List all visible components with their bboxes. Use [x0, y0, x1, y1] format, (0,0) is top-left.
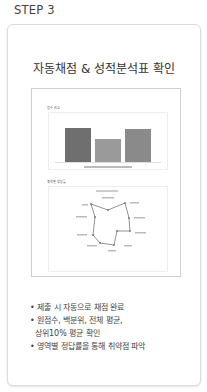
feature-list: • 제출 시 자동으로 채점 완료 • 원점수, 백분위, 전체 평균, 상위1… — [30, 301, 145, 353]
feature-item: • 제출 시 자동으로 채점 완료 — [30, 301, 145, 314]
radar-section-label: 영역별 정답률 — [47, 180, 66, 184]
bar-chart — [48, 112, 168, 170]
report-screenshot: 점수 비교 영역별 정답률 — [31, 88, 181, 277]
radar-plot — [49, 187, 167, 271]
chart-legend — [84, 166, 132, 168]
x-axis — [55, 162, 161, 163]
step-card: 자동채점 & 성적분석표 확인 점수 비교 영역별 정답률 — [7, 24, 201, 386]
bar-my-score — [65, 128, 91, 163]
bar-section-label: 점수 비교 — [47, 106, 60, 110]
step-label: STEP 3 — [14, 3, 55, 17]
bar-average — [95, 139, 121, 163]
card-title: 자동채점 & 성적분석표 확인 — [8, 59, 200, 76]
feature-item: • 원점수, 백분위, 전체 평균, — [30, 314, 145, 327]
bar-top10 — [125, 129, 151, 163]
feature-item: • 영역별 정답률을 통해 취약점 파악 — [30, 340, 145, 353]
radar-chart — [48, 186, 168, 272]
feature-item: 상위10% 평균 확인 — [30, 327, 145, 340]
